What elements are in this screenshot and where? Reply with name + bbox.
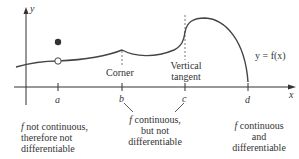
- corner-label: Corner: [106, 67, 134, 78]
- leader-b: [124, 103, 133, 112]
- caption-d-line3: differentiable: [222, 142, 296, 153]
- x-axis-label: x: [289, 89, 293, 100]
- filled-point-icon: [55, 39, 61, 45]
- vertical-tangent-line1: Vertical: [166, 60, 206, 71]
- y-axis-arrow-icon: [24, 7, 29, 14]
- caption-bc-line2: but not: [115, 125, 195, 136]
- caption-bc: f continuous, but not differentiable: [115, 114, 195, 147]
- tick-label-d: d: [245, 94, 250, 105]
- vertical-tangent-label: Vertical tangent: [166, 60, 206, 82]
- tick-label-c: c: [182, 93, 186, 104]
- caption-d: f continuous and differentiable: [222, 120, 296, 153]
- diagram-canvas: y x a b c d Corner Vertical tangent y = …: [0, 0, 299, 159]
- leader-c: [175, 103, 184, 112]
- caption-a: f not continuous, therefore not differen…: [21, 121, 88, 154]
- y-axis-label: y: [30, 3, 34, 14]
- caption-d-line2: and: [222, 131, 296, 142]
- caption-a-line3: differentiable: [21, 143, 88, 154]
- caption-a-line1: not continuous,: [24, 121, 88, 132]
- caption-a-line2: therefore not: [21, 132, 88, 143]
- caption-bc-line3: differentiable: [115, 136, 195, 147]
- curve-label-text: y = f(x): [255, 50, 286, 61]
- caption-bc-line1: continuous,: [132, 114, 181, 125]
- tick-label-b: b: [119, 93, 124, 104]
- caption-d-line1: continuous: [237, 120, 283, 131]
- tick-label-a: a: [55, 94, 60, 105]
- curve-label: y = f(x): [255, 50, 286, 61]
- vertical-tangent-line2: tangent: [166, 71, 206, 82]
- open-point-icon: [55, 58, 61, 64]
